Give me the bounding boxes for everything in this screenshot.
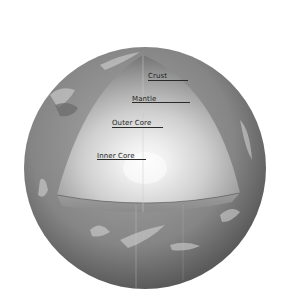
earth-globe-illustration [0,0,294,290]
leader-line-outer-core [112,127,163,128]
leader-line-mantle [132,102,190,103]
leader-line-crust [148,80,188,81]
leader-line-inner-core [97,159,146,160]
label-crust: Crust [148,72,167,80]
label-outer-core: Outer Core [112,119,151,127]
